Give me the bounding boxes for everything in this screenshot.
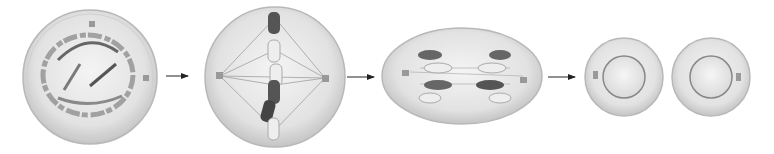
- centrosome-icon: [89, 21, 95, 27]
- centrosome-icon: [216, 72, 223, 79]
- prophase-cell: [23, 10, 157, 144]
- mitosis-diagram: [0, 0, 774, 154]
- centrosome-icon: [143, 75, 149, 81]
- daughter-cell-left: [585, 38, 663, 116]
- daughter-cell-right: [672, 38, 750, 116]
- centrosome-icon: [322, 75, 329, 82]
- anaphase-cell: [382, 28, 542, 124]
- metaphase-cell: [205, 7, 345, 147]
- centrosome-icon: [736, 73, 741, 81]
- centrosome-icon: [520, 77, 527, 83]
- centrosome-icon: [402, 70, 409, 76]
- centrosome-icon: [593, 71, 598, 79]
